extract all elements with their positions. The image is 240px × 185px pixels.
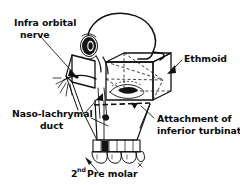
label-attachment-inferior-turbinate-line2: inferior turbinate bbox=[157, 125, 240, 136]
label-infra-orbital-nerve-line2: nerve bbox=[20, 29, 50, 40]
label-second-pre-molar-text: Pre molar bbox=[87, 168, 138, 179]
label-naso-lachrymal-duct-line1: Naso-lachrymal bbox=[12, 108, 93, 119]
anatomy-figure: Infra orbital nerve Ethmoid Naso-lachrym… bbox=[0, 0, 240, 185]
label-naso-lachrymal-duct-line2: duct bbox=[40, 120, 64, 131]
label-infra-orbital-nerve-line1: Infra orbital bbox=[14, 17, 76, 28]
skull-diagram-canvas: Infra orbital nerve Ethmoid Naso-lachrym… bbox=[0, 0, 240, 185]
label-attachment-inferior-turbinate-line1: Attachment of bbox=[157, 113, 233, 124]
label-second-pre-molar-superscript: nd bbox=[77, 166, 86, 173]
label-ethmoid: Ethmoid bbox=[184, 53, 227, 64]
